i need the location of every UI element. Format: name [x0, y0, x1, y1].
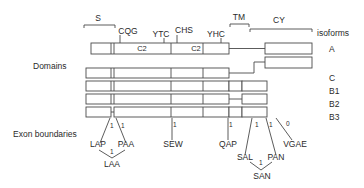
motif-chs-label: CHS [175, 25, 193, 35]
isoform-a-label: A [329, 44, 335, 54]
domains-label: Domains [33, 61, 67, 71]
phase-paa: 1 [121, 122, 125, 129]
region-cytoplasmic-label: CY [273, 15, 285, 25]
isoform-domain-diagram: S TM CY CQG YTC CHS YHC isoforms C2 C2 A [0, 0, 364, 188]
site-laa: LAA [104, 159, 120, 169]
phase-pan: 1 [269, 121, 273, 128]
site-lap: LAP [90, 139, 106, 149]
region-transmembrane: TM [230, 12, 249, 27]
isoform-c: C [86, 57, 335, 83]
domain-c2-2: C2 [191, 44, 201, 53]
phase-laa: 1 [110, 148, 114, 155]
exon-boundary-vgae: 0 VGAE [276, 118, 307, 149]
site-pan: PAN [268, 152, 285, 162]
motif-ytc-label: YTC [153, 29, 170, 39]
phase-sal: 1 [255, 121, 259, 128]
motif-cqg-label: CQG [118, 26, 137, 36]
region-cytoplasmic: CY [250, 15, 312, 32]
motif-cqg: CQG [118, 26, 137, 43]
region-signal-label: S [95, 13, 101, 23]
region-transmembrane-label: TM [233, 12, 245, 22]
site-qap: QAP [219, 139, 237, 149]
exon-boundary-sal-pan: 1 1 SAL PAN 1 SAN [237, 118, 284, 181]
phase-lap: 1 [110, 122, 114, 129]
motif-yhc-label: YHC [207, 29, 225, 39]
site-sal: SAL [237, 152, 253, 162]
exon-boundary-sew: 1 SEW [163, 118, 182, 149]
isoform-b3-label: B3 [329, 112, 340, 122]
motif-ytc: YTC [153, 29, 170, 43]
site-sew: SEW [163, 139, 182, 149]
exon-boundary-qap: 1 QAP [219, 118, 237, 149]
isoforms-header: isoforms [317, 28, 349, 38]
isoform-b2-label: B2 [329, 99, 340, 109]
isoform-c-label: C [329, 73, 335, 83]
phase-vgae: 0 [286, 120, 290, 127]
exon-boundary-lap-paa: 1 1 LAP PAA 1 LAA [90, 118, 135, 169]
domain-c2-1: C2 [137, 44, 147, 53]
isoform-b1-label: B1 [329, 86, 340, 96]
motif-chs: CHS [175, 25, 193, 43]
site-vgae: VGAE [283, 139, 307, 149]
site-paa: PAA [118, 139, 135, 149]
exon-boundaries-label: Exon boundaries [13, 129, 77, 139]
region-signal: S [84, 13, 115, 28]
phase-qap: 1 [229, 121, 233, 128]
phase-sew: 1 [173, 121, 177, 128]
motif-yhc: YHC [207, 29, 225, 43]
isoform-b3: B3 [86, 107, 340, 122]
isoform-a: C2 C2 A [91, 43, 335, 54]
site-san: SAN [253, 171, 270, 181]
phase-san: 1 [259, 159, 263, 166]
